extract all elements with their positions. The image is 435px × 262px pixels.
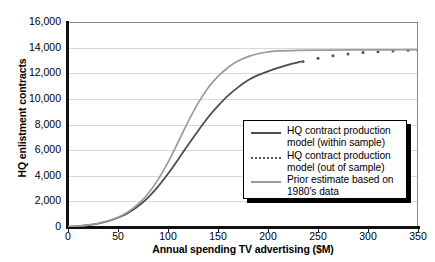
x-tick-label: 350 [393, 231, 435, 242]
x-tick-label: 200 [243, 231, 293, 242]
y-tick-label: 10,000 [3, 93, 61, 104]
y-tick-label: 4,000 [3, 170, 61, 181]
y-tick-label: 2,000 [3, 195, 61, 206]
x-tick-mark [218, 228, 219, 232]
x-tick-label: 50 [93, 231, 143, 242]
x-tick-label: 250 [293, 231, 343, 242]
chart-legend: HQ contract production model (within sam… [243, 120, 407, 199]
y-tick-label: 6,000 [3, 144, 61, 155]
legend-item-label: HQ contract production model (out of sam… [287, 150, 391, 175]
chart-figure: HQ enlistment contracts 02,0004,0006,000… [0, 0, 435, 262]
legend-item-label: Prior estimate based on 1980's data [287, 174, 393, 199]
y-tick-label: 12,000 [3, 67, 61, 78]
x-tick-label: 0 [43, 231, 93, 242]
x-tick-mark [68, 228, 69, 232]
x-tick-mark [418, 228, 419, 232]
x-tick-mark [118, 228, 119, 232]
legend-item[interactable]: HQ contract production model (within sam… [249, 125, 401, 150]
y-tick-label: 16,000 [3, 16, 61, 27]
legend-swatch-solid-dark-icon [249, 126, 283, 140]
x-axis-title: Annual spending TV advertising ($M) [68, 243, 418, 255]
y-tick-label: 8,000 [3, 119, 61, 130]
legend-swatch-dotted-icon [249, 151, 283, 165]
y-tick-label: 14,000 [3, 42, 61, 53]
legend-item-label: HQ contract production model (within sam… [287, 125, 391, 150]
x-tick-label: 100 [143, 231, 193, 242]
legend-item[interactable]: HQ contract production model (out of sam… [249, 150, 401, 175]
x-tick-mark [268, 228, 269, 232]
x-tick-label: 150 [193, 231, 243, 242]
x-tick-mark [168, 228, 169, 232]
x-tick-mark [368, 228, 369, 232]
legend-swatch-solid-light-icon [249, 175, 283, 189]
x-tick-mark [318, 228, 319, 232]
legend-item[interactable]: Prior estimate based on 1980's data [249, 174, 401, 199]
x-tick-label: 300 [343, 231, 393, 242]
